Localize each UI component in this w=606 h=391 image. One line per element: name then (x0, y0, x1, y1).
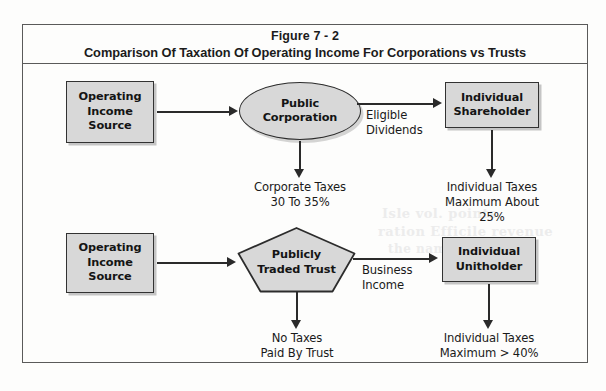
node-label: Operating Income Source (78, 90, 141, 134)
arrowhead-down-icon (483, 320, 493, 329)
connector-unitholder-to-individual-taxes (488, 284, 490, 322)
arrowhead-right-icon (433, 98, 442, 108)
flow-label-eligible-dividends: Eligible Dividends (366, 108, 423, 138)
node-label-wrap: Publicly Traded Trust (236, 248, 357, 277)
arrowhead-right-icon (227, 257, 236, 267)
connector-source-to-corporation (157, 111, 231, 113)
node-individual-unitholder[interactable]: Individual Unitholder (442, 237, 536, 282)
node-public-corporation[interactable]: Public Corporation (239, 82, 361, 140)
arrowhead-down-icon (294, 169, 304, 178)
connector-corporation-to-corporate-taxes (299, 141, 301, 171)
node-label: Individual Unitholder (456, 245, 522, 274)
figure-number: Figure 7 - 2 (271, 28, 339, 44)
figure-title-block: Figure 7 - 2 Comparison Of Taxation Of O… (22, 24, 588, 64)
caption-individual-taxes-trust: Individual Taxes Maximum > 40% (440, 331, 539, 361)
connector-trust-to-unitholder (353, 258, 431, 260)
node-individual-shareholder[interactable]: Individual Shareholder (445, 82, 539, 128)
caption-no-taxes-paid-by-trust: No Taxes Paid By Trust (260, 331, 333, 361)
node-label: Operating Income Source (78, 241, 141, 285)
node-operating-income-source-corporate[interactable]: Operating Income Source (66, 81, 154, 143)
connector-shareholder-to-individual-taxes (491, 130, 493, 171)
figure-page: Isle vol. points ration Efficile revenue… (0, 0, 606, 391)
arrowhead-right-icon (429, 253, 438, 263)
caption-individual-taxes-corporate: Individual Taxes Maximum About 25% (435, 180, 549, 225)
node-label: Publicly Traded Trust (236, 248, 357, 277)
node-label: Individual Shareholder (454, 91, 531, 120)
flow-label-business-income: Business Income (362, 263, 412, 293)
connector-corporation-to-shareholder (357, 103, 435, 105)
node-operating-income-source-trust[interactable]: Operating Income Source (66, 233, 154, 293)
caption-corporate-taxes: Corporate Taxes 30 To 35% (254, 180, 346, 210)
connector-source-to-trust (157, 262, 229, 264)
figure-title: Comparison Of Taxation Of Operating Inco… (84, 44, 526, 61)
node-publicly-traded-trust[interactable]: Publicly Traded Trust (236, 226, 357, 294)
node-label: Public Corporation (263, 97, 338, 126)
arrowhead-right-icon (229, 106, 238, 116)
connector-trust-to-no-taxes (296, 292, 298, 322)
arrowhead-down-icon (486, 169, 496, 178)
arrowhead-down-icon (291, 320, 301, 329)
